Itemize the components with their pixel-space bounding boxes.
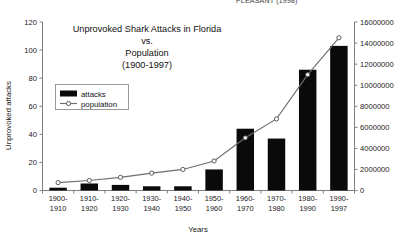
- population-marker: [87, 178, 91, 182]
- left-tick-label: 100: [24, 46, 37, 55]
- bar-attacks: [143, 186, 160, 190]
- left-tick-label: 0: [33, 186, 37, 195]
- bar-attacks: [112, 185, 129, 191]
- title-line-1: Unprovoked Shark Attacks in Florida: [73, 24, 222, 34]
- right-tick-label: 4000000: [360, 144, 390, 153]
- y-axis-title: Unprovoked attacks: [4, 81, 13, 150]
- category-label: 1940-: [173, 194, 192, 203]
- bar-attacks: [205, 169, 222, 190]
- bar-attacks: [174, 186, 191, 190]
- left-tick-label: 120: [24, 18, 37, 27]
- bar-attacks: [299, 70, 316, 191]
- right-tick-label: 14000000: [360, 39, 394, 48]
- legend-swatch-attacks: [60, 91, 77, 97]
- left-tick-label: 80: [29, 74, 37, 83]
- bar-attacks: [330, 46, 347, 191]
- population-marker: [181, 167, 185, 171]
- population-marker: [274, 117, 278, 121]
- chart-container: PLEASANT (1998) 020406080100120 02000000…: [0, 0, 400, 236]
- left-tick-label: 20: [29, 158, 37, 167]
- category-label: 1990: [299, 204, 315, 213]
- category-label: 1950-: [205, 194, 224, 203]
- category-label: 1910-: [80, 194, 99, 203]
- category-label: 1990-: [329, 194, 348, 203]
- left-tick-label: 40: [29, 130, 37, 139]
- category-label: 1960-: [236, 194, 255, 203]
- category-label: 1980-: [298, 194, 317, 203]
- right-tick-label: 8000000: [360, 102, 390, 111]
- bar-attacks: [81, 183, 98, 190]
- legend-swatch-population-marker: [66, 101, 70, 105]
- population-line-group: [56, 36, 341, 185]
- category-label: 1920-: [111, 194, 130, 203]
- chart-title: Unprovoked Shark Attacks in Florida vs. …: [73, 24, 222, 70]
- title-line-3: Population: [125, 48, 168, 58]
- right-tick-labels: 0200000040000006000000800000010000000120…: [360, 18, 394, 196]
- category-labels: 1900-19101910-19201920-19301930-19401940…: [49, 194, 349, 213]
- category-label: 1930: [112, 204, 128, 213]
- category-label: 1970-: [267, 194, 286, 203]
- left-tick-labels: 020406080100120: [24, 18, 37, 196]
- right-tick-label: 6000000: [360, 123, 390, 132]
- population-marker: [306, 73, 310, 77]
- category-label: 1920: [81, 204, 97, 213]
- x-axis-title: Years: [188, 225, 208, 234]
- population-marker: [337, 36, 341, 40]
- category-label: 1980: [268, 204, 284, 213]
- right-tick-label: 10000000: [360, 81, 394, 90]
- legend: attacks population: [56, 85, 129, 110]
- right-tick-label: 16000000: [360, 18, 394, 27]
- category-label: 1900-: [49, 194, 68, 203]
- category-label: 1960: [206, 204, 222, 213]
- population-marker: [212, 159, 216, 163]
- category-label: 1940: [143, 204, 159, 213]
- population-marker: [56, 181, 60, 185]
- chart-svg: 020406080100120 020000004000000600000080…: [0, 0, 400, 236]
- bar-attacks: [268, 139, 285, 191]
- legend-label-population: population: [81, 100, 117, 109]
- legend-label-attacks: attacks: [81, 90, 106, 99]
- right-tick-label: 2000000: [360, 165, 390, 174]
- right-tick-label: 0: [360, 186, 364, 195]
- bars-group: [49, 46, 347, 191]
- category-label: 1997: [331, 204, 347, 213]
- bar-attacks: [49, 188, 66, 191]
- population-marker: [118, 175, 122, 179]
- title-line-2: vs.: [141, 36, 153, 46]
- category-label: 1970: [237, 204, 253, 213]
- category-label: 1910: [50, 204, 66, 213]
- left-tick-label: 60: [29, 102, 37, 111]
- population-line: [58, 38, 339, 183]
- title-line-4: (1900-1997): [122, 60, 172, 70]
- category-label: 1930-: [142, 194, 161, 203]
- population-marker: [150, 171, 154, 175]
- category-label: 1950: [175, 204, 191, 213]
- population-marker: [243, 136, 247, 140]
- right-tick-label: 12000000: [360, 60, 394, 69]
